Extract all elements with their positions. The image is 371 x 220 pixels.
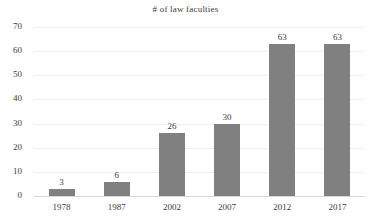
gridline — [34, 196, 365, 197]
y-axis-tick-label: 60 — [0, 46, 22, 55]
bar-value-label: 6 — [89, 171, 144, 180]
y-axis-tick-label: 20 — [0, 143, 22, 152]
bar-group: 30 — [200, 27, 255, 196]
bar — [324, 44, 350, 196]
bar-group: 63 — [255, 27, 310, 196]
bar-group: 3 — [34, 27, 89, 196]
bar-value-label: 3 — [34, 178, 89, 187]
x-axis-tick-label: 2007 — [200, 198, 255, 216]
x-axis-tick-label: 2017 — [310, 198, 365, 216]
y-axis-tick-label: 70 — [0, 22, 22, 31]
y-axis-tick-label: 30 — [0, 119, 22, 128]
bar-group: 26 — [144, 27, 199, 196]
y-axis-tick-label: 10 — [0, 167, 22, 176]
y-axis-tick-label: 40 — [0, 94, 22, 103]
x-axis-labels: 197819872002200720122017 — [34, 198, 365, 216]
bar — [159, 133, 185, 196]
chart-title: # of law faculties — [0, 4, 371, 14]
y-axis-tick-label: 50 — [0, 70, 22, 79]
bar-value-label: 63 — [255, 33, 310, 42]
bar-group: 6 — [89, 27, 144, 196]
bar-chart: # of law faculties 706050403020100 36263… — [0, 0, 371, 220]
bar — [214, 124, 240, 196]
x-axis-tick-label: 1978 — [34, 198, 89, 216]
y-axis-tick-label: 0 — [0, 191, 22, 200]
x-axis-tick-label: 1987 — [89, 198, 144, 216]
bar — [49, 189, 75, 196]
bar-value-label: 26 — [144, 122, 199, 131]
x-axis-tick-label: 2012 — [255, 198, 310, 216]
bar-series: 3626306363 — [34, 27, 365, 196]
bar — [269, 44, 295, 196]
bar — [104, 182, 130, 196]
x-axis-tick-label: 2002 — [144, 198, 199, 216]
bar-value-label: 30 — [200, 113, 255, 122]
bar-value-label: 63 — [310, 33, 365, 42]
bar-group: 63 — [310, 27, 365, 196]
